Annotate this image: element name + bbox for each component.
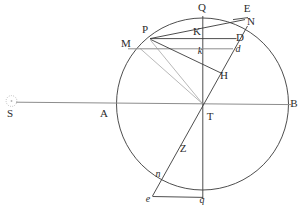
base-line-e-to-q	[153, 197, 204, 198]
astronomy-diagram: SABQENPMKDdkHTZneq	[0, 0, 307, 209]
point-label-n: n	[156, 168, 161, 179]
line-P-to-T	[151, 40, 203, 104]
point-label-T: T	[207, 110, 214, 122]
line-M-to-T	[140, 48, 203, 104]
point-label-Z: Z	[180, 142, 187, 154]
point-label-M: M	[121, 37, 131, 49]
point-label-H: H	[220, 69, 228, 81]
point-label-B: B	[290, 97, 297, 109]
point-label-D: D	[236, 31, 244, 43]
point-label-E: E	[244, 2, 251, 14]
point-label-A: A	[100, 107, 108, 119]
sun-ray-line	[16, 102, 291, 104]
point-label-N: N	[247, 15, 255, 27]
point-label-d: d	[236, 43, 242, 54]
point-label-P: P	[142, 23, 148, 35]
tick-at-E	[233, 18, 248, 20]
point-label-K: K	[193, 25, 201, 37]
point-label-Q: Q	[198, 1, 206, 13]
point-label-k: k	[198, 45, 203, 56]
point-label-S: S	[7, 107, 13, 119]
sun-icon	[6, 96, 17, 107]
point-label-q: q	[200, 194, 205, 205]
point-label-e: e	[146, 193, 151, 204]
line-P-to-H	[151, 39, 223, 73]
